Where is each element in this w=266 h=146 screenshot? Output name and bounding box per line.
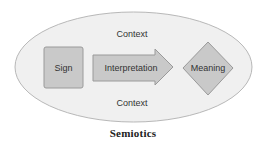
semiotics-diagram: Context Sign Interpretation Meaning Cont… <box>0 0 266 146</box>
context-label-bottom: Context <box>116 98 148 108</box>
diagram-caption: Semiotics <box>0 127 266 139</box>
context-label-top: Context <box>116 29 148 39</box>
interpretation-label: Interpretation <box>104 63 157 73</box>
sign-label: Sign <box>54 63 72 73</box>
meaning-label: Meaning <box>191 63 226 73</box>
